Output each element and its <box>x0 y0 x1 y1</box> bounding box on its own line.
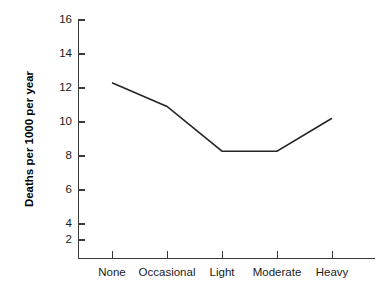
x-tick-label-moderate: Moderate <box>253 266 302 278</box>
y-tick-label-12: 12 <box>59 81 72 93</box>
chart-canvas: 16 14 12 10 8 6 4 2 None Occasional <box>0 0 389 303</box>
y-axis-title: Deaths per 1000 per year <box>23 70 35 207</box>
data-series-line <box>112 83 332 151</box>
line-chart-figure: 16 14 12 10 8 6 4 2 None Occasional <box>0 0 389 303</box>
x-tick-label-light: Light <box>210 266 236 278</box>
y-axis-tick-labels: 16 14 12 10 8 6 4 2 <box>59 13 72 245</box>
x-tick-label-occasional: Occasional <box>139 266 196 278</box>
y-tick-label-4: 4 <box>66 217 73 229</box>
y-tick-label-2: 2 <box>66 233 72 245</box>
y-tick-label-16: 16 <box>59 13 72 25</box>
y-tick-label-14: 14 <box>59 47 72 59</box>
chart-screenshot: 16 14 12 10 8 6 4 2 None Occasional <box>0 0 389 303</box>
y-tick-label-6: 6 <box>66 183 72 195</box>
y-tick-label-10: 10 <box>59 115 72 127</box>
x-tick-label-none: None <box>98 266 126 278</box>
x-tick-label-heavy: Heavy <box>316 266 349 278</box>
y-axis-ticks <box>79 20 86 240</box>
x-axis-tick-labels: None Occasional Light Moderate Heavy <box>98 266 348 278</box>
x-axis-ticks <box>113 251 333 259</box>
y-tick-label-8: 8 <box>66 149 72 161</box>
